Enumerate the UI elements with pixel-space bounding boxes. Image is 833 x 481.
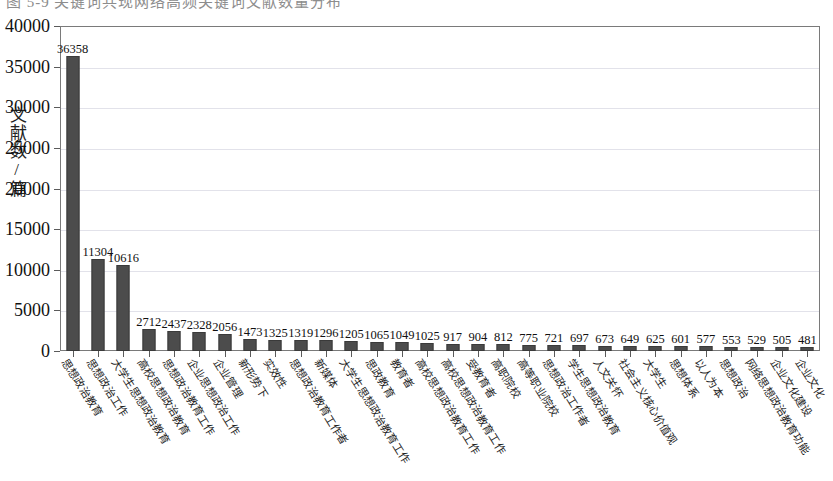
- bar-value-label: 2712: [136, 316, 161, 328]
- bar-slot: 625: [643, 26, 668, 351]
- bars-layer: 3635811304106162712243723282056147313251…: [60, 26, 820, 351]
- bar-value-label: 649: [621, 333, 640, 345]
- bar[interactable]: [167, 331, 180, 351]
- bar-value-label: 625: [646, 333, 665, 345]
- bar-slot: 553: [719, 26, 744, 351]
- bar-slot: 2437: [161, 26, 186, 351]
- bar-value-label: 2437: [161, 318, 186, 330]
- bar-slot: 649: [617, 26, 642, 351]
- bar-value-label: 2328: [187, 319, 212, 331]
- bar-value-label: 601: [671, 333, 690, 345]
- y-axis-tick-label: 20000: [5, 180, 50, 198]
- bar-slot: 1065: [364, 26, 389, 351]
- bar[interactable]: [269, 340, 282, 351]
- bar[interactable]: [497, 344, 510, 351]
- bar-chart: 文献数/篇 0500010000150002000025000300003500…: [0, 0, 833, 481]
- bar-slot: 577: [693, 26, 718, 351]
- x-axis-tick-labels: 思想政治教育思想政治工作大学生思想政治教育高校思想政治教育思想政治教育工作企业思…: [60, 357, 833, 481]
- bar[interactable]: [319, 340, 332, 351]
- bar-slot: 2712: [136, 26, 161, 351]
- x-axis-tick-label: 大学生: [642, 357, 669, 391]
- bar-value-label: 529: [747, 334, 766, 346]
- bar[interactable]: [218, 334, 231, 351]
- bar-slot: 2328: [187, 26, 212, 351]
- bar[interactable]: [294, 340, 307, 351]
- bar[interactable]: [66, 56, 79, 351]
- bar[interactable]: [370, 342, 383, 351]
- bar-slot: 1319: [288, 26, 313, 351]
- bar-value-label: 36358: [57, 43, 88, 55]
- bar-value-label: 1205: [339, 328, 364, 340]
- x-axis-tick-label: 实效性: [262, 357, 289, 391]
- bar[interactable]: [142, 329, 155, 351]
- bar-value-label: 812: [494, 331, 513, 343]
- y-axis-tick-label: 30000: [5, 98, 50, 116]
- y-axis-tick-label: 40000: [5, 17, 50, 35]
- bar[interactable]: [193, 332, 206, 351]
- bar-slot: 1049: [389, 26, 414, 351]
- bar-slot: 10616: [111, 26, 136, 351]
- bar-value-label: 697: [570, 332, 589, 344]
- bar-value-label: 917: [443, 331, 462, 343]
- bar-slot: 2056: [212, 26, 237, 351]
- bar-value-label: 505: [773, 334, 792, 346]
- bar-slot: 721: [541, 26, 566, 351]
- bar-slot: 1205: [339, 26, 364, 351]
- y-axis-tick-label: 5000: [14, 301, 50, 319]
- bar-value-label: 2056: [212, 321, 237, 333]
- bar-slot: 917: [440, 26, 465, 351]
- bar-value-label: 1025: [415, 330, 440, 342]
- bar-value-label: 1065: [364, 329, 389, 341]
- bar[interactable]: [243, 339, 256, 351]
- bar-value-label: 553: [722, 334, 741, 346]
- bar-slot: 775: [516, 26, 541, 351]
- y-axis-tick-labels: 0500010000150002000025000300003500040000: [0, 26, 56, 351]
- bar-value-label: 1296: [313, 327, 338, 339]
- bar-slot: 601: [668, 26, 693, 351]
- bar-slot: 812: [491, 26, 516, 351]
- bar-slot: 11304: [85, 26, 110, 351]
- bar-slot: 529: [744, 26, 769, 351]
- bar-value-label: 577: [697, 333, 716, 345]
- bar-slot: 36358: [60, 26, 85, 351]
- y-axis-tick-label: 10000: [5, 261, 50, 279]
- y-axis-tick-label: 25000: [5, 139, 50, 157]
- bar[interactable]: [446, 344, 459, 351]
- bar-slot: 1473: [237, 26, 262, 351]
- bar-slot: 904: [465, 26, 490, 351]
- bar-slot: 697: [567, 26, 592, 351]
- bar[interactable]: [91, 259, 104, 351]
- bar-value-label: 904: [469, 331, 488, 343]
- bar-slot: 1296: [313, 26, 338, 351]
- bar-value-label: 10616: [108, 252, 139, 264]
- bar-slot: 1025: [415, 26, 440, 351]
- bar[interactable]: [395, 342, 408, 351]
- bar-slot: 1325: [263, 26, 288, 351]
- bar[interactable]: [345, 341, 358, 351]
- bar-value-label: 721: [545, 332, 564, 344]
- bar-value-label: 1325: [263, 327, 288, 339]
- bar[interactable]: [471, 344, 484, 351]
- bar-value-label: 1319: [288, 327, 313, 339]
- bar[interactable]: [421, 343, 434, 351]
- bar-value-label: 673: [595, 333, 614, 345]
- bar[interactable]: [117, 265, 130, 351]
- bar-value-label: 481: [798, 334, 817, 346]
- bar-value-label: 1473: [237, 326, 262, 338]
- bar-value-label: 1049: [389, 329, 414, 341]
- y-axis-tick-label: 35000: [5, 58, 50, 76]
- bar-slot: 673: [592, 26, 617, 351]
- bar-value-label: 775: [519, 332, 538, 344]
- y-axis-tick-label: 15000: [5, 220, 50, 238]
- bar-slot: 481: [795, 26, 820, 351]
- bar-slot: 505: [769, 26, 794, 351]
- y-axis-tick-label: 0: [41, 342, 50, 360]
